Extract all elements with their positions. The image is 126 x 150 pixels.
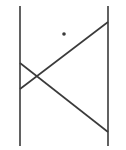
- lower-transversal: [20, 63, 108, 132]
- parallel-lines-transversal-diagram: [0, 0, 126, 150]
- upper-transversal: [20, 22, 108, 89]
- diagram-canvas: [0, 0, 126, 150]
- marked-point: [62, 32, 66, 36]
